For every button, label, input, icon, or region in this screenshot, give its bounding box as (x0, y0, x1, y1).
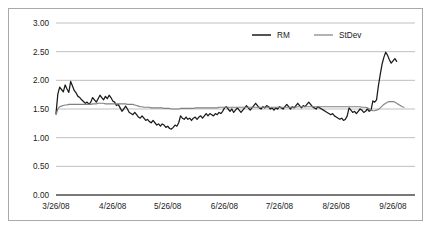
y-axis-tick-label: 0.50 (33, 162, 49, 171)
y-axis-tick-labels: 0.000.501.001.502.002.503.00 (33, 19, 49, 200)
x-axis-tick-label: 4/26/08 (99, 202, 127, 211)
y-axis-tick-label: 1.00 (33, 134, 49, 143)
y-axis-tick-label: 0.00 (33, 191, 49, 200)
figure-container: 0.000.501.001.502.002.503.00 3/26/084/26… (0, 0, 438, 238)
x-axis-tick-label: 7/26/08 (266, 202, 294, 211)
legend-label-rm: RM (277, 31, 290, 40)
chart-legend: RMStDev (252, 31, 362, 40)
x-axis-tick-labels: 3/26/084/26/085/26/086/26/087/26/088/26/… (42, 202, 407, 211)
y-axis-tick-label: 2.50 (33, 48, 49, 57)
y-axis-tick-label: 1.50 (33, 105, 49, 114)
y-axis-tick-label: 3.00 (33, 19, 49, 28)
chart-border-frame: 0.000.501.001.502.002.503.00 3/26/084/26… (8, 8, 423, 221)
legend-label-stdev: StDev (339, 31, 362, 40)
x-axis-tick-label: 8/26/08 (323, 202, 351, 211)
line-chart: 0.000.501.001.502.002.503.00 3/26/084/26… (9, 9, 422, 220)
y-axis-tick-label: 2.00 (33, 76, 49, 85)
series-line-stdev (56, 102, 404, 115)
x-axis-tick-label: 3/26/08 (42, 202, 70, 211)
x-axis-tick-label: 5/26/08 (154, 202, 182, 211)
data-series-group (56, 52, 404, 129)
series-line-rm (56, 52, 397, 129)
x-axis-tick-label: 9/26/08 (379, 202, 407, 211)
x-axis-tick-label: 6/26/08 (211, 202, 239, 211)
